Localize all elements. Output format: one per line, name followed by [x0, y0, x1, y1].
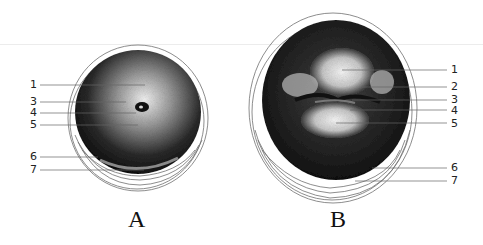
- label-a-1: 1: [30, 79, 37, 90]
- label-b-5: 5: [451, 118, 458, 129]
- caption-a: A: [128, 207, 145, 231]
- caption-b: B: [330, 207, 346, 231]
- panel-a-drawing: [68, 45, 208, 191]
- label-a-5: 5: [30, 119, 37, 130]
- label-b-7: 7: [451, 175, 458, 186]
- label-b-1: 1: [451, 64, 458, 75]
- label-a-4: 4: [30, 107, 37, 118]
- illustration: [0, 0, 483, 245]
- label-b-6: 6: [451, 162, 458, 173]
- label-b-4: 4: [451, 105, 458, 116]
- label-b-2: 2: [451, 81, 458, 92]
- label-a-7: 7: [30, 164, 37, 175]
- label-a-6: 6: [30, 151, 37, 162]
- panel-b-drawing: [249, 13, 417, 203]
